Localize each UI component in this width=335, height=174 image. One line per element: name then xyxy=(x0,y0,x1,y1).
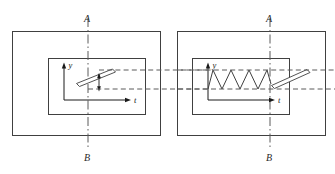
left-t-axis-arrowhead xyxy=(125,98,131,102)
right-t-axis-label: t xyxy=(278,95,281,105)
right-station-label-a: A xyxy=(265,13,273,24)
left-y-axis-label: y xyxy=(68,60,73,70)
left-panel: y t A B xyxy=(13,13,161,163)
left-inclined-bar xyxy=(77,69,116,87)
left-station-label-b: B xyxy=(84,152,90,163)
right-zigzag-waveform xyxy=(208,70,271,89)
diagram-canvas: y t A B y t xyxy=(0,0,335,174)
right-panel: y t A B xyxy=(178,13,326,163)
right-t-axis-arrowhead xyxy=(269,98,275,102)
right-station-label-b: B xyxy=(266,152,272,163)
left-t-axis-label: t xyxy=(134,95,137,105)
technical-diagram-figure: —— ———— ————— —— ——— ———— —— ——— y t xyxy=(0,0,335,174)
right-outer-rectangle xyxy=(178,32,326,136)
right-y-axis-arrowhead xyxy=(206,63,210,69)
horizontal-dashed-connectors xyxy=(88,70,335,89)
left-y-axis-arrowhead xyxy=(62,63,66,69)
right-inclined-bar xyxy=(272,70,311,89)
right-y-axis-label: y xyxy=(212,60,217,70)
left-station-label-a: A xyxy=(83,13,91,24)
